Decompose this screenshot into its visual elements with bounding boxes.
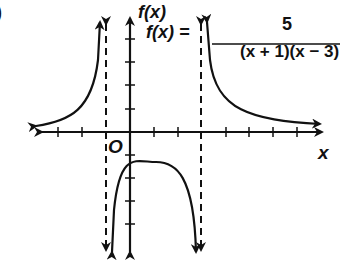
middle-branch bbox=[112, 161, 196, 252]
left-branch bbox=[36, 22, 100, 126]
function-numerator: 5 bbox=[282, 14, 292, 35]
graph-figure: ) f(x) f(x) = 5 (x + 1)(x − 3) x O bbox=[0, 0, 348, 260]
function-lhs: f(x) = bbox=[146, 22, 190, 43]
function-denominator: (x + 1)(x − 3) bbox=[240, 42, 339, 62]
y-axis-label: f(x) bbox=[138, 2, 166, 23]
right-branch bbox=[207, 22, 320, 124]
origin-label: O bbox=[108, 136, 123, 158]
x-axis-label: x bbox=[318, 142, 329, 164]
part-label: ) bbox=[0, 2, 2, 23]
